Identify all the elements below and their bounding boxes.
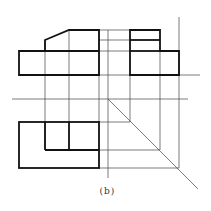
construction-lines xyxy=(12,17,200,189)
orthographic-drawing xyxy=(0,0,211,211)
front-view xyxy=(19,30,99,75)
miter-line-45deg xyxy=(108,99,198,189)
side-view-outline xyxy=(130,30,179,75)
side-view xyxy=(130,30,179,75)
figure-caption: (b) xyxy=(0,186,211,196)
front-view-outline xyxy=(19,30,99,75)
top-view-outline xyxy=(19,122,99,168)
top-view xyxy=(19,122,99,168)
